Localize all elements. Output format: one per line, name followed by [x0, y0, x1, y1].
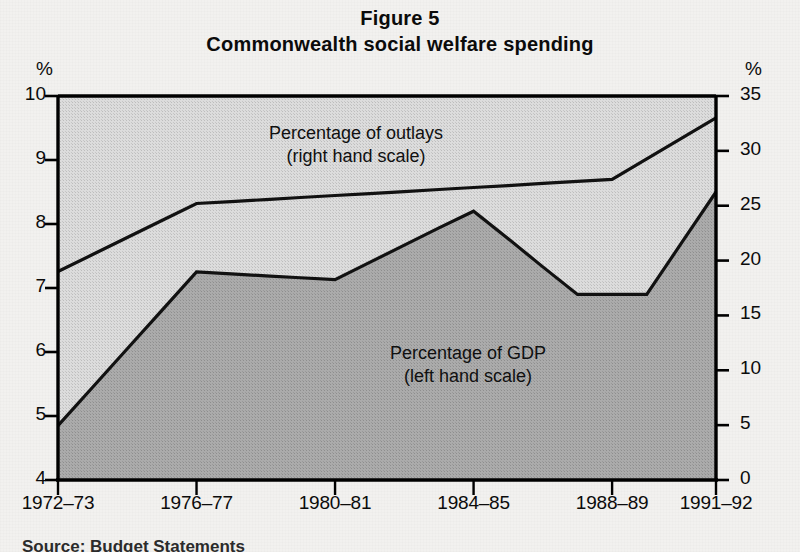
tick-label-x-0: 1972–73	[0, 492, 123, 514]
tick-label-left-8: 8	[12, 211, 46, 233]
tick-label-x-1: 1976–77	[132, 492, 262, 514]
tick-label-left-9: 9	[12, 147, 46, 169]
tick-label-left-10: 10	[12, 83, 46, 105]
annotation-outlays-line1: Percentage of outlays	[196, 122, 516, 145]
tick-label-right-0: 0	[740, 467, 751, 489]
annotation-outlays-line2: (right hand scale)	[196, 145, 516, 168]
tick-label-right-25: 25	[740, 193, 761, 215]
tick-label-x-3: 1984–85	[409, 492, 539, 514]
chart-plot-area	[0, 0, 800, 552]
tick-label-x-2: 1980–81	[270, 492, 400, 514]
annotation-outlays: Percentage of outlays (right hand scale)	[196, 122, 516, 168]
tick-label-right-20: 20	[740, 248, 761, 270]
tick-label-right-5: 5	[740, 412, 751, 434]
annotation-gdp-line1: Percentage of GDP	[328, 342, 608, 365]
tick-label-left-6: 6	[12, 339, 46, 361]
tick-label-right-15: 15	[740, 302, 761, 324]
tick-label-left-4: 4	[12, 467, 46, 489]
tick-label-left-7: 7	[12, 275, 46, 297]
figure-container: Figure 5 Commonwealth social welfare spe…	[0, 0, 800, 552]
annotation-gdp: Percentage of GDP (left hand scale)	[328, 342, 608, 388]
tick-label-right-35: 35	[740, 83, 761, 105]
source-caption-partial: Source: Budget Statements	[22, 537, 782, 552]
tick-label-right-30: 30	[740, 138, 761, 160]
tick-label-x-5: 1991–92	[651, 492, 781, 514]
annotation-gdp-line2: (left hand scale)	[328, 365, 608, 388]
tick-label-right-10: 10	[740, 357, 761, 379]
tick-label-left-5: 5	[12, 403, 46, 425]
